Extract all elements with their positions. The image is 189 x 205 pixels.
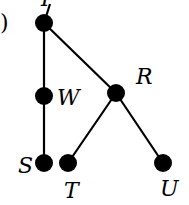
label-t: T: [64, 180, 79, 202]
label-r: R: [136, 66, 153, 88]
edge-r-u: [116, 93, 163, 163]
node-r: [107, 84, 125, 102]
node-y: [35, 14, 53, 32]
label-y: Y: [38, 0, 53, 10]
node-t: [59, 154, 77, 172]
label-w: W: [57, 87, 80, 109]
node-w: [35, 87, 53, 105]
edge-y-r: [44, 23, 116, 93]
node-u: [154, 154, 172, 172]
label-s: S: [18, 155, 33, 177]
label-u: U: [160, 178, 179, 200]
node-s: [35, 154, 53, 172]
